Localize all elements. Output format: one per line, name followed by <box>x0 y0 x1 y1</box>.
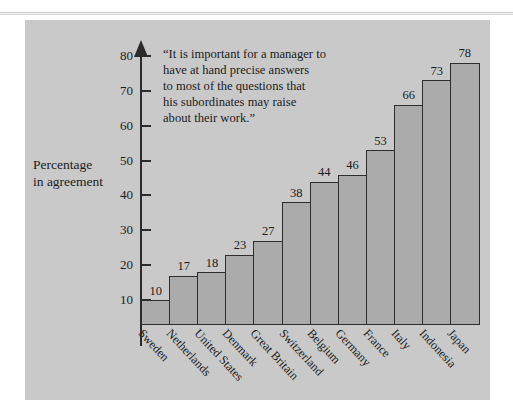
bar-value-label: 17 <box>169 260 199 273</box>
bar-value-label: 44 <box>310 166 340 179</box>
bar-belgium[interactable] <box>310 182 340 326</box>
bar-france[interactable] <box>366 150 396 325</box>
x-axis-labels: SwedenNetherlandsUnited StatesDenmarkGre… <box>141 327 501 417</box>
bar-value-label: 27 <box>253 225 283 238</box>
bar-germany[interactable] <box>338 175 368 325</box>
y-axis-title-line: Percentage <box>33 157 137 174</box>
y-axis-tick-label: 70 <box>99 84 133 97</box>
bar-united-states[interactable] <box>197 272 227 325</box>
bar-italy[interactable] <box>394 105 424 325</box>
bar-value-label: 73 <box>422 65 452 78</box>
bar-netherlands[interactable] <box>169 276 199 325</box>
bar-value-label: 46 <box>338 159 368 172</box>
bar-indonesia[interactable] <box>422 80 452 325</box>
bar-value-label: 23 <box>225 239 255 252</box>
bars-layer: 101718232738444653667378 <box>141 20 481 325</box>
bar-value-label: 10 <box>141 285 171 298</box>
y-axis-title-line: in agreement <box>33 174 137 191</box>
y-axis-tick-label: 10 <box>99 293 133 306</box>
y-axis-tick-label: 30 <box>99 223 133 236</box>
bar-sweden[interactable] <box>141 300 171 325</box>
bar-value-label: 18 <box>197 257 227 270</box>
bar-japan[interactable] <box>450 63 480 325</box>
x-axis-label-italy: Italy <box>389 327 413 352</box>
page-top-rule <box>0 12 513 15</box>
y-axis-tick-label: 60 <box>99 119 133 132</box>
bar-value-label: 38 <box>282 187 312 200</box>
chart-panel: 1020304050607080 Percentagein agreement … <box>25 20 490 400</box>
bar-denmark[interactable] <box>225 255 255 325</box>
bar-switzerland[interactable] <box>282 202 312 325</box>
bar-value-label: 53 <box>366 135 396 148</box>
bar-value-label: 66 <box>394 89 424 102</box>
y-axis-title: Percentagein agreement <box>33 157 137 191</box>
y-axis-tick-label: 20 <box>99 258 133 271</box>
y-axis-tick-label: 80 <box>99 49 133 62</box>
bar-great-britain[interactable] <box>253 241 283 325</box>
bar-value-label: 78 <box>450 47 480 60</box>
